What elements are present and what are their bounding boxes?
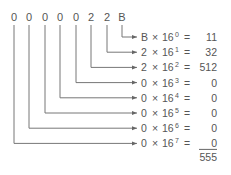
- row-digit: 2: [141, 61, 147, 73]
- expansion-row: 0×163=0: [141, 77, 217, 89]
- times-sign: ×: [152, 92, 158, 104]
- times-sign: ×: [152, 31, 158, 43]
- equals-sign: =: [184, 61, 190, 73]
- base: 16: [162, 61, 174, 73]
- equals-sign: =: [184, 92, 190, 104]
- hex-digit: 0: [42, 11, 48, 23]
- times-sign: ×: [152, 61, 158, 73]
- row-value: 32: [205, 46, 217, 58]
- total-value: 555: [199, 151, 217, 163]
- base: 16: [162, 31, 174, 43]
- exponent: 0: [175, 31, 179, 38]
- row-digit: 0: [141, 92, 147, 104]
- times-sign: ×: [152, 137, 158, 149]
- exponent: 5: [175, 107, 179, 114]
- row-value: 0: [211, 122, 217, 134]
- hex-digit: 0: [73, 11, 79, 23]
- connector-arrow: [122, 25, 137, 37]
- hex-digit: B: [118, 11, 125, 23]
- row-value: 0: [211, 107, 217, 119]
- hex-digit: 2: [104, 11, 110, 23]
- times-sign: ×: [152, 122, 158, 134]
- row-digit: 0: [141, 107, 147, 119]
- exponent: 2: [175, 61, 179, 68]
- hex-digit: 0: [26, 11, 32, 23]
- base: 16: [162, 137, 174, 149]
- equals-sign: =: [184, 31, 190, 43]
- expansion-row: 0×165=0: [141, 107, 217, 119]
- equals-sign: =: [184, 137, 190, 149]
- row-value: 0: [211, 92, 217, 104]
- base: 16: [162, 107, 174, 119]
- connector-arrow: [60, 25, 137, 98]
- hex-digit: 0: [57, 11, 63, 23]
- times-sign: ×: [152, 77, 158, 89]
- exponent: 3: [175, 77, 179, 84]
- equals-sign: =: [184, 122, 190, 134]
- hex-to-decimal-diagram: 0000022B B×160=112×161=322×162=5120×163=…: [0, 0, 231, 175]
- times-sign: ×: [152, 46, 158, 58]
- expansion-row: 0×167=0: [141, 137, 217, 149]
- row-value: 0: [211, 77, 217, 89]
- row-digit: 0: [141, 77, 147, 89]
- row-value: 11: [206, 31, 217, 43]
- diagram-canvas: 0000022B B×160=112×161=322×162=5120×163=…: [0, 0, 231, 175]
- row-value: 512: [199, 61, 217, 73]
- exponent: 7: [175, 137, 179, 144]
- equals-sign: =: [184, 107, 190, 119]
- equals-sign: =: [184, 46, 190, 58]
- base: 16: [162, 92, 174, 104]
- times-sign: ×: [152, 107, 158, 119]
- base: 16: [162, 77, 174, 89]
- exponent: 1: [175, 46, 179, 53]
- row-digit: 0: [141, 137, 147, 149]
- row-value: 0: [211, 137, 217, 149]
- row-digit: B: [141, 31, 148, 43]
- expansion-row: B×160=11: [141, 31, 217, 43]
- base: 16: [162, 122, 174, 134]
- base: 16: [162, 46, 174, 58]
- hex-digit: 0: [11, 11, 17, 23]
- row-digit: 0: [141, 122, 147, 134]
- exponent: 4: [175, 92, 179, 99]
- expansion-row: 0×166=0: [141, 122, 217, 134]
- expansion-row: 2×161=32: [141, 46, 217, 58]
- connector-arrow: [91, 25, 137, 67]
- hex-digit: 2: [88, 11, 94, 23]
- exponent: 6: [175, 122, 179, 129]
- equals-sign: =: [184, 77, 190, 89]
- expansion-row: 2×162=512: [141, 61, 217, 73]
- row-digit: 2: [141, 46, 147, 58]
- expansion-row: 0×164=0: [141, 92, 217, 104]
